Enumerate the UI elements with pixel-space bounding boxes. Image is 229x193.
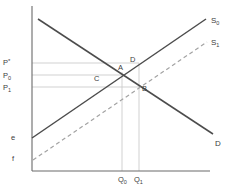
y-label-p0: P0 [3,71,11,81]
supply-demand-chart: DS0S1P*P0P1efQ0Q1ABCD [0,0,229,193]
supply-s0-curve [32,19,206,138]
chart-canvas: DS0S1P*P0P1efQ0Q1ABCD [0,0,229,193]
point-a-label: A [118,63,123,72]
point-c-label: C [94,74,100,83]
point-b-label: B [142,84,147,93]
x-label-q0: Q0 [118,175,127,185]
supply-s1-curve [33,42,207,160]
supply-s1-label: S1 [211,38,219,48]
y-label-f: f [12,154,15,163]
y-label-e: e [11,133,15,142]
point-d-label: D [130,55,136,64]
y-label-p1: P1 [3,83,11,93]
y-label-p-star: P* [3,58,11,67]
x-label-q1: Q1 [134,175,143,185]
supply-s0-label: S0 [211,16,219,26]
demand-label: D [215,139,221,148]
